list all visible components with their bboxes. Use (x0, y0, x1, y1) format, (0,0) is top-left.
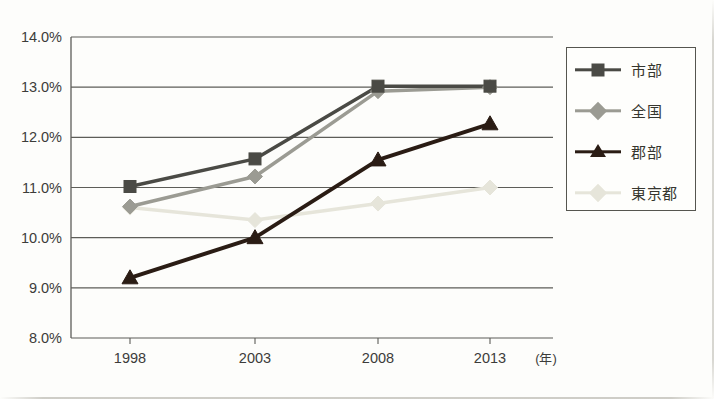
legend-label: 郡部 (631, 141, 662, 162)
legend-swatch-triangle-icon (575, 141, 621, 163)
data-point-市部-1998 (124, 180, 136, 192)
legend-label: 市部 (631, 59, 662, 80)
chart-legend: 市部全国郡部東京都 (566, 47, 696, 211)
data-point-市部-2003 (249, 153, 261, 165)
series-line-全国 (130, 87, 490, 206)
data-point-郡部-2013 (482, 116, 498, 130)
y-axis-tick-labels: 8.0%9.0%10.0%11.0%12.0%13.0%14.0% (21, 29, 62, 346)
legend-item-全国[interactable]: 全国 (567, 90, 697, 131)
data-point-市部-2013 (484, 80, 496, 92)
legend-swatch-square-icon (575, 59, 621, 81)
x-axis-tick-label: 2003 (239, 350, 271, 366)
legend-item-郡部[interactable]: 郡部 (567, 131, 697, 172)
series-line-郡部 (130, 124, 490, 278)
data-point-市部-2008 (372, 80, 384, 92)
legend-label: 全国 (631, 100, 662, 121)
legend-marker-diamond-icon (589, 101, 607, 119)
y-axis-tick-label: 14.0% (21, 29, 62, 45)
y-axis-tick-label: 9.0% (29, 280, 62, 296)
x-axis-unit-text: (年) (535, 351, 557, 366)
x-axis-tick-label: 2008 (362, 350, 394, 366)
legend-marker-triangle-icon (590, 143, 606, 156)
legend-item-東京都[interactable]: 東京都 (567, 172, 697, 213)
legend-swatch-diamond-icon (575, 100, 621, 122)
data-point-東京都-2003 (248, 213, 263, 228)
data-point-markers (122, 80, 498, 284)
data-point-東京都-2013 (483, 180, 498, 195)
x-axis-tick-labels: 1998200320082013 (114, 350, 506, 366)
legend-item-市部[interactable]: 市部 (567, 49, 697, 90)
y-axis-tick-label: 12.0% (21, 129, 62, 145)
y-axis-tick-label: 10.0% (21, 230, 62, 246)
chart-container: 8.0%9.0%10.0%11.0%12.0%13.0%14.0% 199820… (0, 0, 714, 399)
data-point-全国-1998 (123, 199, 138, 214)
legend-label: 東京都 (631, 182, 678, 203)
x-axis-tick-label: 2013 (474, 350, 506, 366)
x-axis-tick-label: 1998 (114, 350, 146, 366)
x-axis-unit-label: (年) (535, 351, 557, 366)
data-point-東京都-2008 (371, 196, 386, 211)
legend-marker-diamond-icon (589, 183, 607, 201)
y-axis-tick-label: 11.0% (22, 180, 62, 196)
data-series-lines (130, 86, 490, 278)
y-axis-tick-label: 13.0% (21, 79, 62, 95)
legend-swatch-diamond-icon (575, 182, 621, 204)
y-axis-tick-label: 8.0% (29, 330, 62, 346)
legend-marker-square-icon (592, 63, 605, 76)
